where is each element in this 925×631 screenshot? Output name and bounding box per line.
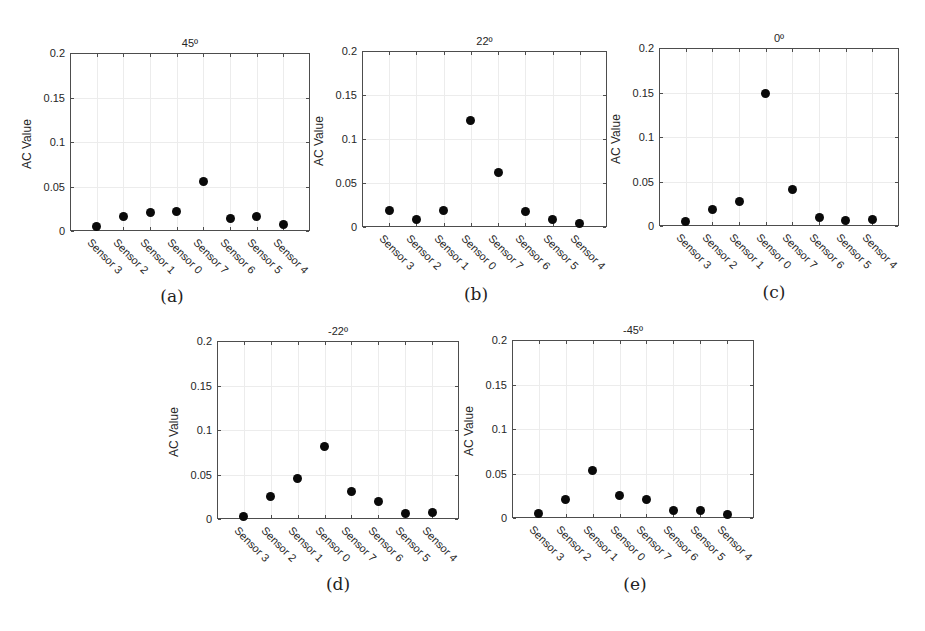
x-tick-mark: [283, 54, 284, 57]
gridline-horizontal: [71, 142, 309, 143]
y-tick-label: 0.1: [471, 423, 507, 435]
y-tick-mark: [750, 429, 753, 430]
x-tick-mark: [271, 342, 272, 345]
x-tick-mark: [739, 222, 740, 225]
data-point: [226, 214, 235, 223]
data-point: [439, 206, 448, 215]
y-tick-mark: [455, 519, 458, 520]
y-tick-label: 0.15: [176, 380, 212, 392]
y-tick-mark: [455, 430, 458, 431]
data-point: [320, 442, 329, 451]
data-point: [735, 197, 744, 206]
y-tick-mark: [218, 475, 221, 476]
x-tick-mark: [819, 49, 820, 52]
y-tick-label: 0.15: [471, 379, 507, 391]
gridline-vertical: [97, 54, 98, 230]
gridline-vertical: [283, 54, 284, 230]
gridline-vertical: [405, 342, 406, 518]
x-tick-mark: [257, 227, 258, 230]
gridline-horizontal: [363, 95, 606, 96]
y-tick-label: 0.05: [176, 469, 212, 481]
y-tick-label: 0.05: [29, 181, 65, 193]
y-tick-mark: [750, 385, 753, 386]
gridline-vertical: [553, 52, 554, 226]
y-tick-label: 0: [618, 220, 654, 232]
x-tick-mark: [271, 515, 272, 518]
y-tick-label: 0.2: [29, 47, 65, 59]
y-tick-mark: [306, 187, 309, 188]
data-point: [401, 509, 410, 518]
x-tick-mark: [123, 227, 124, 230]
y-tick-mark: [71, 187, 74, 188]
y-tick-label: 0.15: [321, 89, 357, 101]
x-tick-mark: [298, 342, 299, 345]
y-tick-mark: [363, 139, 366, 140]
y-tick-mark: [750, 518, 753, 519]
y-tick-label: 0: [471, 512, 507, 524]
x-tick-mark: [389, 223, 390, 226]
data-point: [172, 207, 181, 216]
gridline-horizontal: [660, 137, 898, 138]
gridline-vertical: [712, 49, 713, 225]
gridline-vertical: [389, 52, 390, 226]
y-tick-mark: [513, 518, 516, 519]
gridline-vertical: [539, 341, 540, 517]
y-tick-mark: [513, 340, 516, 341]
y-tick-mark: [603, 227, 606, 228]
plot-area: [362, 51, 607, 227]
gridline-vertical: [471, 52, 472, 226]
y-tick-mark: [603, 51, 606, 52]
y-tick-mark: [306, 98, 309, 99]
y-tick-mark: [218, 386, 221, 387]
x-tick-mark: [123, 54, 124, 57]
panel-caption: (e): [623, 574, 646, 594]
x-tick-mark: [539, 341, 540, 344]
data-point: [374, 497, 383, 506]
x-tick-mark: [298, 515, 299, 518]
y-tick-mark: [455, 386, 458, 387]
gridline-horizontal: [218, 386, 458, 387]
x-tick-mark: [846, 49, 847, 52]
x-tick-mark: [700, 341, 701, 344]
y-tick-label: 0: [29, 225, 65, 237]
gridline-vertical: [566, 341, 567, 517]
plot-area: [217, 341, 459, 519]
gridline-horizontal: [513, 474, 753, 475]
gridline-vertical: [378, 342, 379, 518]
y-tick-mark: [513, 474, 516, 475]
y-tick-label: 0: [321, 221, 357, 233]
y-tick-mark: [363, 227, 366, 228]
gridline-vertical: [230, 54, 231, 230]
gridline-vertical: [766, 49, 767, 225]
gridline-horizontal: [363, 139, 606, 140]
y-tick-label: 0.05: [471, 468, 507, 480]
x-tick-mark: [444, 52, 445, 55]
x-tick-mark: [566, 341, 567, 344]
gridline-vertical: [203, 54, 204, 230]
x-tick-mark: [498, 52, 499, 55]
x-tick-mark: [727, 341, 728, 344]
y-tick-mark: [363, 51, 366, 52]
panel-caption: (d): [326, 574, 350, 594]
y-tick-mark: [660, 182, 663, 183]
gridline-vertical: [244, 342, 245, 518]
gridline-horizontal: [513, 385, 753, 386]
x-tick-mark: [416, 52, 417, 55]
x-tick-mark: [872, 49, 873, 52]
y-tick-mark: [750, 340, 753, 341]
y-tick-mark: [660, 93, 663, 94]
gridline-horizontal: [218, 475, 458, 476]
gridline-vertical: [819, 49, 820, 225]
x-tick-mark: [203, 227, 204, 230]
x-tick-mark: [378, 515, 379, 518]
gridline-vertical: [700, 341, 701, 517]
x-tick-mark: [389, 52, 390, 55]
y-tick-mark: [660, 48, 663, 49]
x-tick-mark: [325, 515, 326, 518]
y-tick-mark: [306, 231, 309, 232]
x-tick-mark: [712, 222, 713, 225]
y-tick-label: 0.1: [29, 136, 65, 148]
data-point: [239, 512, 248, 521]
y-axis-label: AC Value: [462, 406, 476, 456]
gridline-vertical: [432, 342, 433, 518]
